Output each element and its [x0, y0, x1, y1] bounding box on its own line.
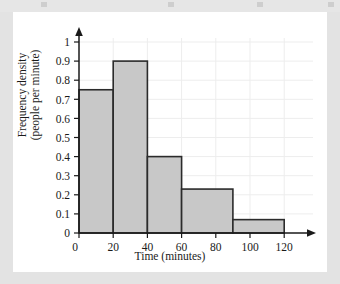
scan-edge-artifact [0, 0, 340, 12]
y-tick-label: 0 [64, 227, 70, 239]
histogram-svg: 0 0.1 0.2 0.3 0.4 0.5 0.6 0.7 0.8 0.9 1 … [13, 12, 327, 272]
y-tick-label: 0.8 [56, 74, 71, 86]
y-tick-label: 0.5 [56, 132, 71, 144]
y-tick-label: 0.7 [56, 94, 71, 106]
x-axis-title: Time (minutes) [13, 250, 327, 262]
bar-20-40 [113, 61, 147, 233]
y-axis-title: Frequency density (people per minute) [16, 15, 42, 175]
y-axis-title-line-2: (people per minute) [29, 15, 42, 175]
y-tick-label: 1 [64, 36, 70, 48]
bar-40-60 [147, 157, 181, 233]
y-tick-label: 0.6 [56, 113, 71, 125]
x-axis-arrow-icon [307, 229, 316, 237]
bar-90-120 [233, 220, 284, 233]
histogram-plot: 0 0.1 0.2 0.3 0.4 0.5 0.6 0.7 0.8 0.9 1 … [13, 12, 327, 272]
y-tick-label: 0.9 [56, 55, 71, 67]
y-tick-labels: 0 0.1 0.2 0.3 0.4 0.5 0.6 0.7 0.8 0.9 1 [56, 36, 71, 239]
y-tick-label: 0.2 [56, 189, 71, 201]
bar-60-90 [182, 189, 233, 233]
y-tick-label: 0.1 [56, 208, 71, 220]
y-axis-title-line-1: Frequency density [16, 15, 29, 175]
y-tick-label: 0.3 [56, 170, 71, 182]
chart-card: 0 0.1 0.2 0.3 0.4 0.5 0.6 0.7 0.8 0.9 1 … [13, 12, 327, 272]
y-tick-label: 0.4 [56, 151, 71, 163]
bar-0-20 [79, 90, 113, 233]
y-axis-arrow-icon [75, 27, 83, 36]
chart-page: 0 0.1 0.2 0.3 0.4 0.5 0.6 0.7 0.8 0.9 1 … [0, 0, 340, 284]
